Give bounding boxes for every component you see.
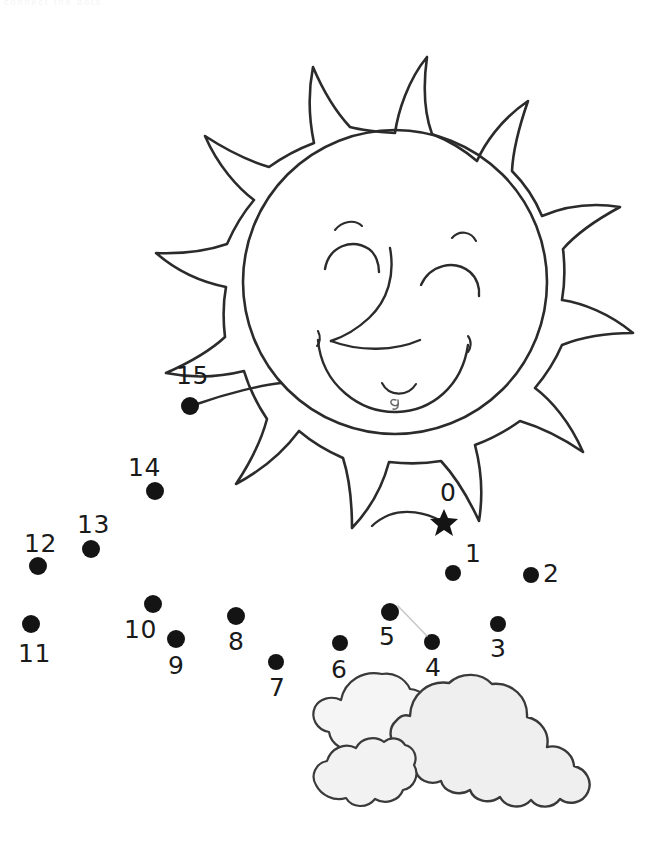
puzzle-dot-label-12: 12 xyxy=(24,531,57,556)
puzzle-dot-label-1: 1 xyxy=(465,541,481,566)
puzzle-artboard xyxy=(0,0,656,857)
puzzle-dot-label-6: 6 xyxy=(331,657,347,682)
puzzle-dot-6[interactable] xyxy=(332,635,348,651)
connector-dot15-to-sun xyxy=(197,383,281,404)
sun-right-eye-icon xyxy=(421,265,479,296)
sun-upper-lip-icon xyxy=(331,340,420,349)
sun-illustration xyxy=(156,57,633,528)
sun-left-eyebrow-icon xyxy=(335,222,362,230)
sun-smile-icon xyxy=(318,340,468,412)
puzzle-dot-label-7: 7 xyxy=(269,675,285,700)
puzzle-dot-3[interactable] xyxy=(490,616,506,632)
puzzle-dot-10[interactable] xyxy=(144,595,162,613)
puzzle-dot-label-5: 5 xyxy=(379,624,395,649)
cloud-puff-front-right xyxy=(391,675,590,807)
puzzle-dot-label-15: 15 xyxy=(176,363,209,388)
partial-guide-stroke-5-4 xyxy=(398,606,427,636)
puzzle-dot-label-9: 9 xyxy=(168,653,184,678)
sun-rays xyxy=(156,57,633,528)
puzzle-dot-label-14: 14 xyxy=(128,455,161,480)
puzzle-dot-5[interactable] xyxy=(381,603,399,621)
puzzle-dot-2[interactable] xyxy=(523,567,539,583)
puzzle-dot-7[interactable] xyxy=(268,654,284,670)
puzzle-dot-label-11: 11 xyxy=(18,641,51,666)
sun-face-circle xyxy=(243,130,547,434)
sun-left-eye-icon xyxy=(325,244,379,272)
artist-signature-glyph xyxy=(391,400,398,410)
puzzle-dot-label-2: 2 xyxy=(543,561,559,586)
puzzle-dot-label-13: 13 xyxy=(77,512,110,537)
puzzle-dot-15[interactable] xyxy=(181,397,199,415)
cloud-cluster xyxy=(313,673,589,806)
sun-nose-icon xyxy=(331,248,392,341)
cloud-puff-front-bottom xyxy=(314,738,417,806)
puzzle-dot-0[interactable] xyxy=(430,509,458,536)
puzzle-dot-label-10: 10 xyxy=(124,617,157,642)
puzzle-dot-label-3: 3 xyxy=(490,636,506,661)
puzzle-dot-label-0: 0 xyxy=(440,480,456,505)
puzzle-dot-label-8: 8 xyxy=(228,629,244,654)
sun-chin-dimple-icon xyxy=(382,383,416,394)
sun-right-eyebrow-icon xyxy=(452,233,476,241)
puzzle-dot-1[interactable] xyxy=(445,565,461,581)
worksheet-page: connect the dots xyxy=(0,0,656,857)
puzzle-dot-11[interactable] xyxy=(22,615,40,633)
puzzle-dot-label-4: 4 xyxy=(425,655,441,680)
puzzle-dot-9[interactable] xyxy=(167,630,185,648)
puzzle-dot-14[interactable] xyxy=(146,482,164,500)
puzzle-dot-8[interactable] xyxy=(227,607,245,625)
puzzle-dot-12[interactable] xyxy=(29,557,47,575)
puzzle-dot-13[interactable] xyxy=(82,540,100,558)
